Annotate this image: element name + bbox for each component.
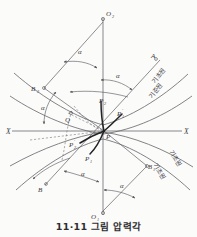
angle-label-alpha-upper-right: α <box>116 72 120 80</box>
angle-arc-upper-right <box>101 80 132 90</box>
label-point-p2-prime-mark: ′ <box>74 139 75 144</box>
pressure-angle-diagram: O 2 O 1 X X A B B 2 B 1 Q P P <box>0 0 197 237</box>
tangent-B2-to-P <box>44 88 104 131</box>
angle-label-alpha-lower-right: α <box>120 182 124 190</box>
label-point-p2-sub: 2 <box>104 101 106 106</box>
figure-caption: 11·11 그림 압력각 <box>0 219 197 233</box>
label-point-p2-prime-sub: 2 <box>74 145 76 150</box>
label-point-p1-prime-sub: 1 <box>122 114 124 119</box>
label-point-p1-prime-mark: ′ <box>122 108 123 113</box>
radius-O1-B1 <box>103 166 147 211</box>
label-O2-letter: O <box>106 10 111 18</box>
label-point-q: Q <box>65 116 70 124</box>
label-point-p: P <box>105 133 111 141</box>
angle-arc-upper-left <box>64 61 97 68</box>
label-point-b2-sub: 2 <box>37 89 39 94</box>
rotation-arrow-lower <box>33 158 70 179</box>
label-point-p1-sub: 1 <box>90 159 92 164</box>
angle-label-alpha-mid-left: α <box>41 104 45 112</box>
label-point-p2: P 2 <box>98 97 106 106</box>
angle-arc-mid-left <box>44 92 56 124</box>
involute-profile-curves <box>80 101 122 154</box>
label-point-a: A <box>150 52 156 60</box>
label-point-p1: P 1 <box>84 155 92 164</box>
label-point-b: B <box>38 186 43 194</box>
angle-label-alpha-upper-left: α <box>78 48 82 56</box>
radius-O2-B2 <box>44 22 103 88</box>
label-O2-sub: 2 <box>112 14 114 19</box>
label-base-circle-lower-right: 기초원 <box>167 148 184 168</box>
label-point-b1-letter: B <box>148 163 152 170</box>
figure-page: O 2 O 1 X X A B B 2 B 1 Q P P <box>0 0 197 237</box>
label-x-left: X <box>5 127 11 136</box>
point-markers <box>43 17 158 214</box>
label-point-p1-prime: P 1 ′ <box>116 108 124 119</box>
label-point-p2-prime: P 2 ′ <box>68 139 76 150</box>
label-point-b2-letter: B <box>31 85 36 93</box>
tangent-B1-to-P <box>104 131 147 166</box>
angle-label-alpha-lower-left: α <box>81 170 85 178</box>
label-point-b2: B 2 <box>31 85 39 94</box>
label-pitch-circle-upper-right: 기준원 <box>146 81 164 101</box>
label-x-right: X <box>183 127 189 136</box>
label-O2: O 2 <box>106 10 114 19</box>
